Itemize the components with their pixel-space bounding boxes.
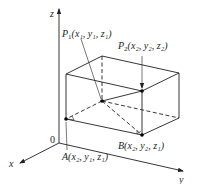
- leader-a: [66, 122, 67, 150]
- box-edge-bottom-front: [66, 119, 142, 135]
- label-p2: P2(x₂, y₂, z₂): [117, 40, 168, 53]
- box-top-face: [66, 56, 179, 91]
- point-labels: P1(x₁, y₁, z₁) P2(x₂, y₂, z₂) A(x₂, y₁, …: [61, 28, 168, 163]
- right-angle-markers: [68, 116, 141, 134]
- x-axis-label: x: [8, 158, 14, 169]
- y-axis-label: y: [178, 174, 184, 184]
- segment-p1-a: [66, 101, 102, 119]
- segment-p1-b: [102, 101, 142, 135]
- label-a: A(x₂, y₁, z₁): [61, 151, 109, 163]
- segment-p1-p2: [102, 91, 142, 101]
- points: [64, 89, 144, 137]
- leader-p1: [81, 39, 101, 99]
- point-a: [64, 117, 68, 121]
- box-distance-diagram: z x y 0: [0, 0, 202, 184]
- x-axis: [20, 143, 59, 163]
- origin-label: 0: [50, 134, 55, 145]
- point-b: [140, 133, 144, 137]
- label-p1: P1(x₁, y₁, z₁): [61, 28, 112, 41]
- z-axis-label: z: [49, 8, 54, 19]
- box-edge-bottom-back: [102, 101, 179, 118]
- box-visible-edges: [66, 56, 179, 135]
- leader-lines: [66, 39, 142, 150]
- point-p2: [140, 89, 144, 93]
- point-p1: [100, 99, 104, 103]
- box-edge-bottom-right: [142, 118, 179, 135]
- label-b: B(x₂, y₂, z₁): [118, 140, 165, 152]
